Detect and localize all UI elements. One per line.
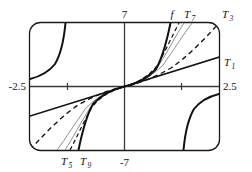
curve-label-T5: T 5 bbox=[61, 155, 73, 170]
curve-label-T5-sub: 5 bbox=[69, 161, 73, 170]
curve-label-T3-sub: 3 bbox=[229, 14, 234, 23]
curve-label-T1-sub: 1 bbox=[232, 62, 236, 71]
curve-f-left-branch bbox=[30, 23, 66, 79]
x-max-label: 2.5 bbox=[223, 80, 237, 92]
plot-area bbox=[30, 23, 220, 151]
y-min-label: -7 bbox=[120, 156, 130, 168]
curve-label-T5-base: T bbox=[61, 155, 68, 167]
curve-label-T3-base: T bbox=[222, 8, 229, 20]
curve-label-T7: T 7 bbox=[184, 8, 196, 23]
curve-f-right-branch bbox=[184, 94, 220, 150]
y-max-label: 7 bbox=[122, 8, 128, 20]
curve-label-T1: T 1 bbox=[224, 56, 235, 71]
curve-label-T7-base: T bbox=[184, 8, 191, 20]
taylor-polynomial-figure: 7 -7 -2.5 2.5 f T 7 T 3 T 1 T 5 bbox=[0, 0, 252, 172]
curve-label-T3: T 3 bbox=[222, 8, 234, 23]
curve-label-T9-base: T bbox=[80, 155, 87, 167]
curve-label-T7-sub: 7 bbox=[192, 14, 196, 23]
curve-label-f: f bbox=[170, 8, 175, 20]
curve-label-T9-sub: 9 bbox=[88, 161, 92, 170]
plot-svg: 7 -7 -2.5 2.5 f T 7 T 3 T 1 T 5 bbox=[0, 0, 252, 172]
x-min-label: -2.5 bbox=[9, 80, 27, 92]
curve-label-T9: T 9 bbox=[80, 155, 92, 170]
curve-label-T1-base: T bbox=[224, 56, 231, 68]
